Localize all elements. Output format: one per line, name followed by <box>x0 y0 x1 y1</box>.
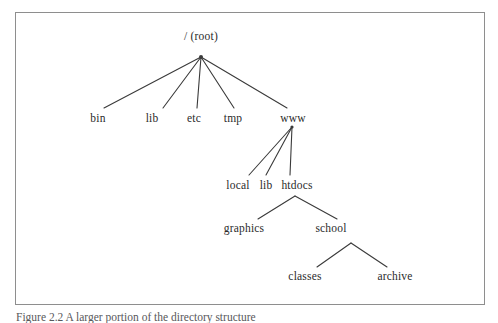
tree-node-archive: archive <box>377 270 412 283</box>
tree-node-classes: classes <box>288 270 321 283</box>
tree-node-root: / (root) <box>184 30 218 43</box>
figure-caption: Figure 2.2 A larger portion of the direc… <box>16 311 456 323</box>
figure-container: / (root)binlibetctmpwwwlocallibhtdocsgra… <box>0 0 498 323</box>
tree-node-lib: lib <box>146 112 159 125</box>
tree-node-bin: bin <box>90 112 105 125</box>
tree-node-local: local <box>226 179 249 192</box>
tree-node-www: www <box>280 112 306 125</box>
tree-node-school: school <box>315 222 346 235</box>
tree-node-htdocs: htdocs <box>281 179 312 192</box>
figure-frame-border <box>15 12 485 305</box>
tree-node-wwwlib: lib <box>260 179 273 192</box>
tree-node-tmp: tmp <box>224 112 243 125</box>
tree-node-graphics: graphics <box>224 222 265 235</box>
tree-node-etc: etc <box>187 112 201 125</box>
